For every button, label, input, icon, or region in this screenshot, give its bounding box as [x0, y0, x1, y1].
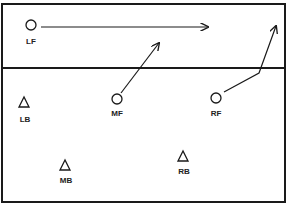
player-label-rf: RF: [211, 109, 222, 118]
triangle-icon: [19, 97, 29, 107]
circle-icon: [112, 94, 122, 104]
player-mf: MF: [111, 94, 123, 118]
triangle-icon: [60, 160, 70, 170]
player-mb: MB: [60, 160, 73, 185]
player-label-lb: LB: [20, 115, 31, 124]
triangle-icon: [178, 151, 188, 161]
circle-icon: [26, 20, 36, 30]
player-rb: RB: [178, 151, 190, 176]
player-label-mb: MB: [60, 176, 73, 185]
player-label-rb: RB: [178, 167, 190, 176]
player-lb: LB: [19, 97, 31, 124]
player-label-mf: MF: [111, 109, 123, 118]
player-lf: LF: [26, 20, 36, 46]
rf-movement-arrow: [224, 26, 276, 92]
player-rf: RF: [211, 93, 222, 118]
court-diagram: LF MF RF LB MB RB: [0, 0, 295, 207]
court-boundary: [2, 4, 285, 202]
player-label-lf: LF: [26, 37, 36, 46]
circle-icon: [211, 93, 221, 103]
